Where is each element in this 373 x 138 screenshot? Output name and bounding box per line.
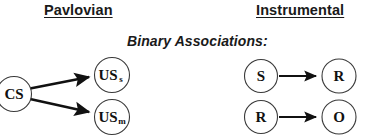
- node-us-s-subscript: s: [119, 74, 123, 84]
- node-cs-label: CS: [4, 86, 23, 102]
- node-us-m-subscript: m: [118, 116, 126, 126]
- node-instrumental-r-bottom: R: [245, 101, 278, 134]
- node-instrumental-o-label: O: [333, 109, 345, 125]
- pavlovian-arrow-cs-to-uss: [30, 77, 89, 89]
- node-cs: CS: [0, 77, 32, 112]
- node-instrumental-o: O: [322, 100, 356, 134]
- node-instrumental-s-label: S: [257, 68, 265, 84]
- node-us-m: US m: [95, 100, 130, 135]
- diagram-canvas: CS US s US m S R R: [0, 0, 373, 138]
- node-instrumental-r-top-label: R: [334, 68, 345, 84]
- node-instrumental-r-bottom-label: R: [256, 109, 267, 125]
- node-us-s-label: US: [98, 67, 117, 83]
- binary-associations-figure: Pavlovian Instrumental Binary Associatio…: [0, 0, 373, 138]
- node-us-s: US s: [95, 58, 130, 93]
- node-us-m-label: US: [98, 109, 117, 125]
- node-instrumental-s: S: [245, 60, 278, 93]
- pavlovian-arrow-cs-to-usm: [30, 99, 89, 112]
- node-instrumental-r-top: R: [322, 59, 356, 93]
